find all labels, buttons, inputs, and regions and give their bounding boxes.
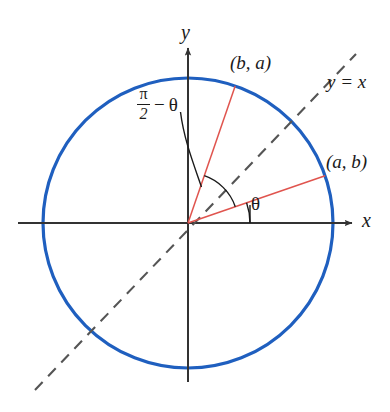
fraction-numerator-pi: π	[137, 86, 149, 103]
theta-label: θ	[251, 194, 260, 213]
figure-root: y x (b, a) (a, b) y = x θ π 2 − θ	[0, 0, 390, 412]
y-axis-label: y	[181, 22, 190, 42]
point-label-b-a: (b, a)	[230, 53, 271, 72]
ray-to-point-b-a	[188, 86, 235, 223]
x-axis-label: x	[362, 210, 371, 230]
complement-arc	[204, 176, 235, 207]
point-label-a-b: (a, b)	[326, 152, 367, 171]
pi-over-two-fraction: π 2	[137, 86, 150, 122]
complement-theta-glyph: θ	[169, 95, 178, 114]
fraction-denominator-two: 2	[138, 106, 150, 123]
identity-line-label: y = x	[327, 72, 366, 91]
complement-leader-line	[181, 112, 202, 187]
complement-angle-label: π 2 − θ	[137, 86, 178, 122]
unit-circle-diagram	[0, 0, 390, 412]
minus-sign: −	[153, 95, 166, 114]
